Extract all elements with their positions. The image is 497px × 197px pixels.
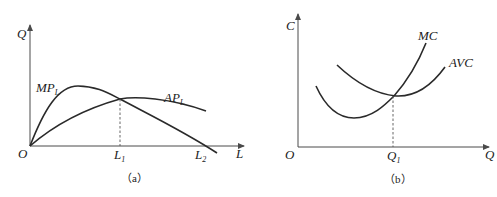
l-axis-label: L bbox=[235, 146, 243, 161]
panel-b-cost-curves: C O Q MC AVC Q1 （b） bbox=[285, 14, 495, 185]
origin-label-a: O bbox=[18, 146, 28, 161]
mp-label: MPL bbox=[35, 80, 60, 97]
l2-tick-label: L2 bbox=[194, 147, 206, 164]
mc-curve bbox=[316, 43, 426, 118]
ap-label: APL bbox=[163, 90, 185, 107]
q1-tick-label: Q1 bbox=[387, 148, 400, 165]
avc-curve bbox=[337, 65, 445, 96]
caption-b: （b） bbox=[384, 173, 412, 185]
panel-a-production-curves: Q O L MPL APL L1 L2 （a） bbox=[17, 25, 244, 184]
l1-tick-label: L1 bbox=[113, 147, 125, 164]
caption-a: （a） bbox=[121, 172, 148, 184]
c-axis-label: C bbox=[286, 18, 295, 33]
origin-label-b: O bbox=[285, 147, 295, 162]
q-axis-label: Q bbox=[17, 26, 27, 41]
diagram-canvas: Q O L MPL APL L1 L2 （a） C O Q MC AVC Q1 … bbox=[0, 0, 497, 197]
mc-label: MC bbox=[417, 28, 438, 43]
q-axis-label-b: Q bbox=[485, 147, 495, 162]
avc-label: AVC bbox=[448, 55, 473, 70]
